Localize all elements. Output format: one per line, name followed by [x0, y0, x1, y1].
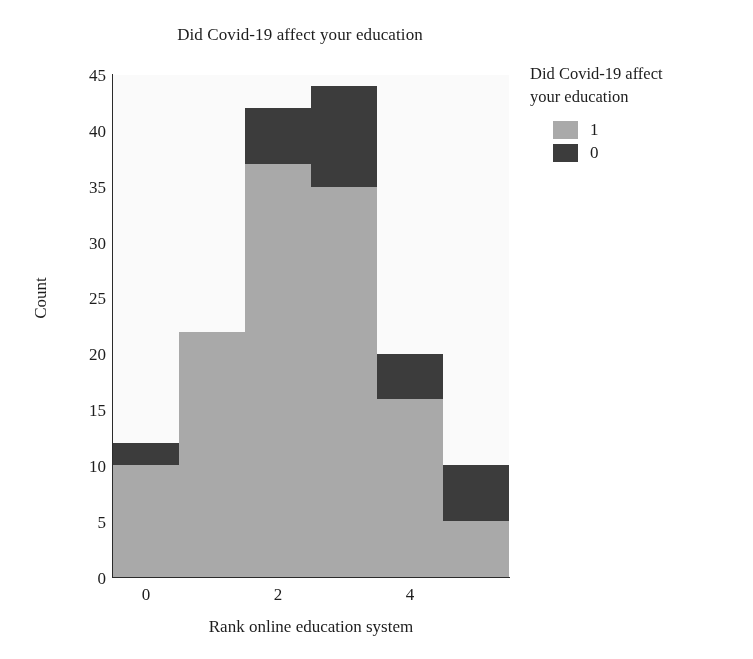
y-tick-25: 25 — [70, 290, 106, 307]
bar-segment-light-4 — [377, 399, 443, 577]
bar-segment-light-5 — [443, 521, 509, 577]
legend-item-0: 0 — [553, 141, 745, 164]
bar-segment-dark-4 — [377, 354, 443, 399]
bar-segment-dark-2 — [245, 108, 311, 164]
x-axis-title: Rank online education system — [113, 617, 509, 637]
y-axis-line — [112, 74, 113, 578]
legend-title-line-1: Did Covid-19 affect — [530, 62, 730, 85]
legend-label-1: 1 — [590, 121, 599, 139]
bar-segment-dark-3 — [311, 86, 377, 186]
y-tick-40: 40 — [70, 123, 106, 140]
legend-title: Did Covid-19 affect your education — [530, 62, 730, 108]
y-tick-20: 20 — [70, 346, 106, 363]
y-tick-15: 15 — [70, 402, 106, 419]
y-axis-title: Count — [31, 253, 51, 343]
y-tick-5: 5 — [70, 514, 106, 531]
x-tick-4: 4 — [390, 586, 430, 604]
y-tick-45: 45 — [70, 67, 106, 84]
bar-segment-light-2 — [245, 164, 311, 577]
bar-segment-dark-0 — [113, 443, 179, 465]
x-tick-2: 2 — [258, 586, 298, 604]
x-tick-0: 0 — [126, 586, 166, 604]
y-tick-30: 30 — [70, 235, 106, 252]
legend-item-1: 1 — [553, 118, 745, 141]
y-tick-0: 0 — [70, 570, 106, 587]
plot-area — [113, 75, 509, 577]
y-tick-10: 10 — [70, 458, 106, 475]
chart-figure: Did Covid-19 affect your education Count… — [0, 0, 753, 659]
chart-legend: Did Covid-19 affect your education 1 0 — [530, 62, 745, 164]
legend-swatch-icon-1 — [553, 121, 578, 139]
bar-segment-light-3 — [311, 187, 377, 577]
bar-segment-dark-5 — [443, 465, 509, 521]
bar-segment-light-0 — [113, 465, 179, 577]
x-axis-line — [112, 577, 510, 578]
legend-label-0: 0 — [590, 144, 599, 162]
y-tick-35: 35 — [70, 179, 106, 196]
legend-swatch-icon-0 — [553, 144, 578, 162]
legend-entries: 1 0 — [553, 118, 745, 164]
y-axis-tick-labels: 45 40 35 30 25 20 15 10 5 0 — [58, 0, 106, 659]
bar-segment-light-1 — [179, 332, 245, 577]
legend-title-line-2: your education — [530, 85, 730, 108]
